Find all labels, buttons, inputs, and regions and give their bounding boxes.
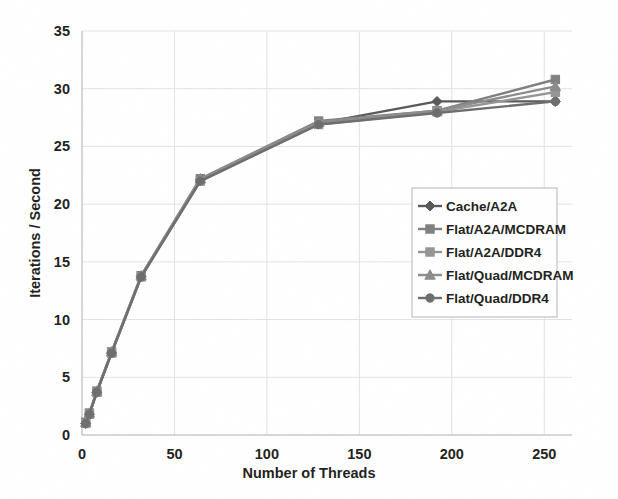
y-tick-label: 0 bbox=[62, 427, 70, 443]
series-marker bbox=[81, 419, 89, 427]
y-tick-label: 30 bbox=[54, 81, 70, 97]
legend-marker-icon bbox=[426, 225, 434, 233]
series-marker bbox=[107, 349, 115, 357]
chart-legend: Cache/A2AFlat/A2A/MCDRAMFlat/A2A/DDR4Fla… bbox=[412, 188, 574, 317]
legend-entry-label: Flat/A2A/MCDRAM bbox=[446, 222, 566, 237]
x-tick-label: 150 bbox=[347, 446, 371, 462]
series-marker bbox=[433, 109, 441, 117]
series-marker bbox=[314, 120, 322, 128]
line-chart-canvas: 05101520253035 050100150200250 Cache/A2A… bbox=[0, 0, 618, 499]
x-axis-title: Number of Threads bbox=[243, 465, 376, 481]
y-axis-title: Iterations / Second bbox=[27, 168, 43, 298]
legend-marker-icon bbox=[426, 248, 434, 256]
series-marker bbox=[551, 97, 559, 105]
y-tick-label: 25 bbox=[54, 138, 70, 154]
x-tick-label: 250 bbox=[532, 446, 556, 462]
legend-marker-icon bbox=[426, 294, 434, 302]
legend-entry-label: Flat/Quad/MCDRAM bbox=[446, 268, 574, 283]
legend-entry-label: Cache/A2A bbox=[446, 199, 518, 214]
x-tick-label: 200 bbox=[440, 446, 464, 462]
series-marker bbox=[93, 388, 101, 396]
y-tick-label: 10 bbox=[54, 312, 70, 328]
y-tick-label: 35 bbox=[54, 23, 70, 39]
legend-entry-label: Flat/Quad/DDR4 bbox=[446, 291, 549, 306]
series-marker bbox=[137, 273, 145, 281]
y-tick-label: 20 bbox=[54, 196, 70, 212]
y-tick-label: 5 bbox=[62, 369, 70, 385]
legend-entry-label: Flat/A2A/DDR4 bbox=[446, 245, 542, 260]
y-tick-label: 15 bbox=[54, 254, 70, 270]
series-marker bbox=[196, 177, 204, 185]
series-marker bbox=[85, 410, 93, 418]
chart-figure: 05101520253035 050100150200250 Cache/A2A… bbox=[0, 0, 618, 499]
x-tick-label: 100 bbox=[255, 446, 279, 462]
x-tick-label: 50 bbox=[166, 446, 182, 462]
x-tick-label: 0 bbox=[78, 446, 86, 462]
